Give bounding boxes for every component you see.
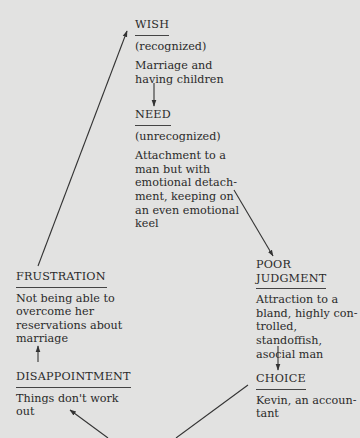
- arrow-choice-to-disappointment-a: [176, 385, 248, 438]
- node-title: NEED: [135, 108, 171, 126]
- node-subtitle: (unrecognized): [135, 130, 239, 144]
- arrow-need-to-poor-judgment: [234, 190, 273, 256]
- node-need: NEED (unrecognized) Attachment to a man …: [135, 108, 239, 231]
- node-description: Things don't work out: [16, 392, 131, 419]
- node-subtitle: (recognized): [135, 40, 224, 54]
- node-choice: CHOICE Kevin, an accoun- tant: [256, 372, 356, 421]
- node-title: WISH: [135, 18, 169, 36]
- node-description: Marriage and having children: [135, 59, 224, 86]
- arrow-frustration-to-wish: [38, 31, 127, 266]
- node-title: CHOICE: [256, 372, 306, 390]
- node-title: DISAPPOINTMENT: [16, 370, 131, 388]
- node-description: Attraction to a bland, highly con- troll…: [256, 293, 360, 361]
- node-title: FRUSTRATION: [16, 270, 107, 288]
- node-frustration: FRUSTRATION Not being able to overcome h…: [16, 270, 122, 346]
- node-disappointment: DISAPPOINTMENT Things don't work out: [16, 370, 131, 419]
- node-description: Not being able to overcome her reservati…: [16, 292, 122, 346]
- node-wish: WISH (recognized) Marriage and having ch…: [135, 18, 224, 86]
- node-description: Kevin, an accoun- tant: [256, 394, 356, 421]
- node-description: Attachment to a man but with emotional d…: [135, 149, 239, 231]
- node-poor-judgment: POOR JUDGMENT Attraction to a bland, hig…: [256, 258, 360, 361]
- node-title: POOR JUDGMENT: [256, 258, 326, 289]
